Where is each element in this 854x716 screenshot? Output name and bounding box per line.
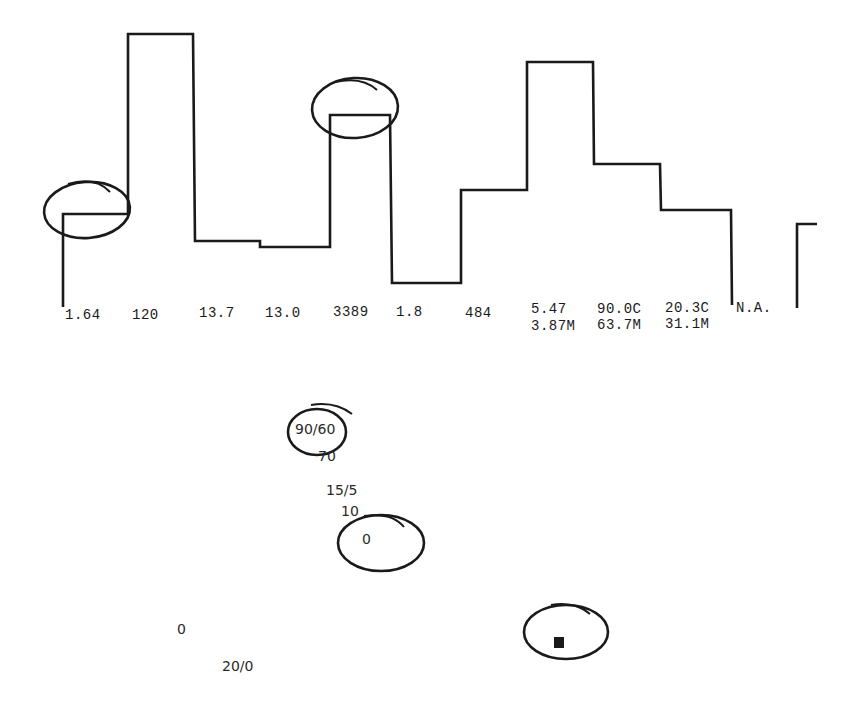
value-label: 13.7 bbox=[199, 305, 235, 321]
step-line bbox=[63, 34, 732, 307]
value-label-secondary: 3.87M bbox=[531, 318, 576, 334]
step-chart bbox=[0, 0, 854, 716]
annotation-label: 90/60 bbox=[295, 421, 335, 437]
step-line-partial bbox=[797, 224, 817, 308]
value-label: N.A. bbox=[736, 300, 772, 316]
annotation-label: 0 bbox=[362, 531, 371, 547]
value-label-secondary: 31.1M bbox=[665, 316, 710, 332]
annotation-label: 10 bbox=[341, 503, 359, 519]
value-label-secondary: 63.7M bbox=[597, 317, 642, 333]
circle-annotation-step1 bbox=[42, 179, 132, 241]
annotation-label: 0 bbox=[177, 621, 186, 637]
value-label: 5.47 bbox=[531, 301, 567, 317]
value-label: 90.0C bbox=[597, 301, 642, 317]
value-label: 484 bbox=[465, 305, 492, 321]
annotation-label: 70 bbox=[318, 448, 336, 464]
value-label: 120 bbox=[132, 307, 159, 323]
square-marker-icon bbox=[554, 637, 564, 648]
value-label: 3389 bbox=[333, 304, 369, 320]
value-label: 13.0 bbox=[265, 305, 301, 321]
circle-annotation-step5 bbox=[310, 76, 399, 140]
circle-annotation-zero bbox=[338, 515, 424, 571]
annotation-label: 20/0 bbox=[222, 658, 253, 674]
value-label: 20.3C bbox=[665, 300, 710, 316]
value-label: 1.64 bbox=[65, 307, 101, 323]
annotation-label: 15/5 bbox=[326, 482, 357, 498]
circle-annotation-square bbox=[524, 604, 608, 659]
value-label: 1.8 bbox=[396, 304, 423, 320]
